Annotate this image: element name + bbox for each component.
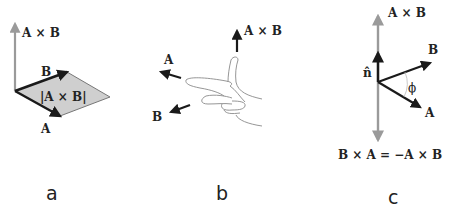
- right-hand-icon: [186, 57, 262, 126]
- label-a: A: [424, 106, 435, 120]
- vector-b-arrow: [171, 105, 190, 112]
- caption-b: b: [216, 182, 228, 204]
- label-a: A: [40, 122, 51, 136]
- angle-arc: [404, 72, 407, 97]
- label-b: B: [41, 65, 51, 79]
- label-b: B: [152, 110, 162, 124]
- panel-a: A × B B |A × B| A a: [15, 24, 110, 204]
- label-a: A: [163, 53, 174, 67]
- cross-product-figure: A × B B |A × B| A a A × B A B: [0, 0, 465, 217]
- panel-c: A × B B n̂ ϕ A B × A = −A × B c: [338, 6, 442, 208]
- equation-label: B × A = −A × B: [338, 148, 442, 162]
- label-cross: A × B: [21, 26, 60, 40]
- vector-b-arrow: [378, 63, 430, 82]
- caption-a: a: [46, 182, 58, 204]
- label-unit-normal: n̂: [363, 66, 372, 80]
- panel-b: A × B A B b: [152, 24, 282, 204]
- label-cross: A × B: [387, 6, 426, 20]
- label-b: B: [428, 43, 438, 57]
- caption-c: c: [388, 186, 398, 208]
- label-cross: A × B: [243, 24, 282, 38]
- vector-a-arrow: [161, 72, 181, 78]
- label-angle: ϕ: [408, 81, 416, 95]
- label-area: |A × B|: [40, 90, 87, 104]
